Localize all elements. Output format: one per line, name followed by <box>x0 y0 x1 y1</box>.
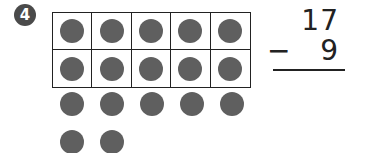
minuend: 17 <box>265 6 345 36</box>
counter-icon <box>100 19 124 43</box>
ten-frame-cell <box>132 50 171 87</box>
counter-icon <box>100 130 124 153</box>
counter-icon <box>60 57 84 81</box>
problem-number-badge: 4 <box>14 4 36 26</box>
subtraction-problem: 17 − 9 <box>265 6 345 71</box>
subtrahend: 9 <box>320 36 345 66</box>
counter-icon <box>60 92 84 116</box>
ten-frame-cell <box>211 13 250 50</box>
ten-frame-cell <box>53 13 92 50</box>
counter-icon <box>139 19 163 43</box>
ten-frame-cell <box>92 13 131 50</box>
counter-icon <box>180 92 204 116</box>
loose-counters <box>52 92 252 153</box>
counter-icon <box>139 57 163 81</box>
counter-icon <box>220 92 244 116</box>
counter-icon <box>60 19 84 43</box>
counter-icon <box>178 19 202 43</box>
ten-frame-cell <box>211 50 250 87</box>
counter-icon <box>100 57 124 81</box>
answer-line <box>273 69 345 71</box>
ten-frame-cell <box>92 50 131 87</box>
counter-icon <box>100 92 124 116</box>
counter-icon <box>218 57 242 81</box>
ten-frame <box>52 12 251 88</box>
counter-icon <box>60 130 84 153</box>
ten-frame-cell <box>132 13 171 50</box>
counter-icon <box>178 57 202 81</box>
counter-icon <box>218 19 242 43</box>
ten-frame-cell <box>171 13 210 50</box>
ten-frame-cell <box>53 50 92 87</box>
ten-frame-cell <box>171 50 210 87</box>
counter-icon <box>140 92 164 116</box>
minus-sign: − <box>265 36 290 66</box>
